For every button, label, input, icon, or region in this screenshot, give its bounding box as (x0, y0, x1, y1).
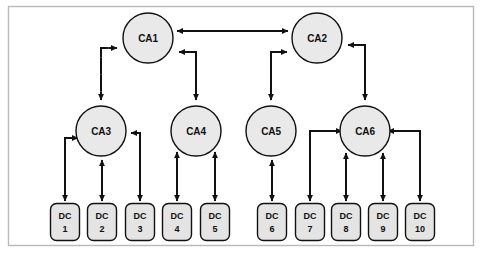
node-box (406, 204, 435, 241)
node-box (51, 204, 80, 241)
node-label-line1: DC (414, 211, 427, 221)
node-label: CA4 (186, 126, 206, 137)
edge-arrow-to-ca6 (348, 45, 365, 100)
node-dc3[interactable]: DC 3 (126, 204, 155, 241)
node-label-line1: DC (266, 211, 279, 221)
node-dc8[interactable]: DC 8 (332, 204, 361, 241)
node-label-line1: DC (96, 211, 109, 221)
node-ca4[interactable]: CA4 (171, 106, 221, 156)
edge-arrow-to-ca6 (310, 131, 342, 201)
edge-arrow-to-ca5 (271, 52, 287, 100)
node-label-line2: 9 (380, 224, 385, 234)
node-label-line2: 5 (212, 224, 217, 234)
edge-arrow-to-ca1 (101, 48, 117, 100)
edge-arrow-to-dc10 (388, 131, 420, 201)
node-label: CA1 (138, 33, 158, 44)
edge-ca1-ca4 (179, 52, 196, 100)
node-ca2[interactable]: CA2 (292, 13, 342, 63)
node-dc10[interactable]: DC 10 (406, 204, 435, 241)
node-box (201, 204, 230, 241)
figure-container: CA1 CA2 CA3 CA4 CA5 CA6 (0, 0, 482, 253)
node-label-line2: 10 (415, 224, 425, 234)
edge-ca2-ca5 (271, 52, 287, 100)
node-box (296, 204, 325, 241)
node-label: CA2 (307, 33, 327, 44)
node-label-line2: 4 (174, 224, 179, 234)
node-label-line1: DC (304, 211, 317, 221)
edge-arrow-to-ca2 (271, 52, 287, 100)
node-dc4[interactable]: DC 4 (163, 204, 192, 241)
edge-arrow-to-dc7 (310, 131, 342, 201)
node-box (163, 204, 192, 241)
node-label: CA3 (91, 126, 111, 137)
node-label-line1: DC (59, 211, 72, 221)
node-label: CA6 (355, 126, 375, 137)
node-label-line2: 7 (307, 224, 312, 234)
edge-arrow-to-ca3 (65, 138, 78, 201)
node-ca6[interactable]: CA6 (340, 106, 390, 156)
edge-arrow-to-ca6 (388, 131, 420, 201)
node-box (88, 204, 117, 241)
edge-arrow-to-ca2 (348, 45, 365, 100)
edge-arrow-to-ca1 (179, 52, 196, 100)
edge-ca1-ca3 (101, 48, 117, 100)
node-label-line1: DC (171, 211, 184, 221)
network-diagram: CA1 CA2 CA3 CA4 CA5 CA6 (0, 0, 482, 253)
authority-node-layer: CA1 CA2 CA3 CA4 CA5 CA6 (76, 13, 390, 156)
node-dc2[interactable]: DC 2 (88, 204, 117, 241)
edge-ca3-dc3 (131, 133, 140, 201)
node-dc1[interactable]: DC 1 (51, 204, 80, 241)
node-label: CA5 (261, 126, 281, 137)
edge-arrow-to-ca4 (179, 52, 196, 100)
node-dc6[interactable]: DC 6 (258, 204, 287, 241)
node-ca3[interactable]: CA3 (76, 106, 126, 156)
node-box (332, 204, 361, 241)
edge-arrow-to-dc1 (65, 138, 78, 201)
node-label-line1: DC (209, 211, 222, 221)
edge-arrow-to-dc3 (131, 133, 140, 201)
node-box (369, 204, 398, 241)
edge-arrow-to-ca3 (101, 48, 117, 100)
edge-arrow-to-ca3 (131, 133, 140, 201)
node-label-line2: 8 (343, 224, 348, 234)
node-label-line1: DC (134, 211, 147, 221)
node-ca5[interactable]: CA5 (246, 106, 296, 156)
node-label-line2: 1 (62, 224, 67, 234)
node-label-line1: DC (340, 211, 353, 221)
edge-ca3-dc1 (65, 138, 78, 201)
node-dc9[interactable]: DC 9 (369, 204, 398, 241)
node-label-line2: 3 (137, 224, 142, 234)
node-box (258, 204, 287, 241)
node-label-line1: DC (377, 211, 390, 221)
edge-ca6-dc10 (388, 131, 420, 201)
node-box (126, 204, 155, 241)
node-dc5[interactable]: DC 5 (201, 204, 230, 241)
node-label-line2: 6 (269, 224, 274, 234)
edge-ca2-ca6 (348, 45, 365, 100)
node-label-line2: 2 (99, 224, 104, 234)
node-dc7[interactable]: DC 7 (296, 204, 325, 241)
edge-ca6-dc7 (310, 131, 342, 201)
center-node-layer: DC 1 DC 2 DC 3 DC 4 DC 5 (51, 204, 435, 241)
node-ca1[interactable]: CA1 (123, 13, 173, 63)
